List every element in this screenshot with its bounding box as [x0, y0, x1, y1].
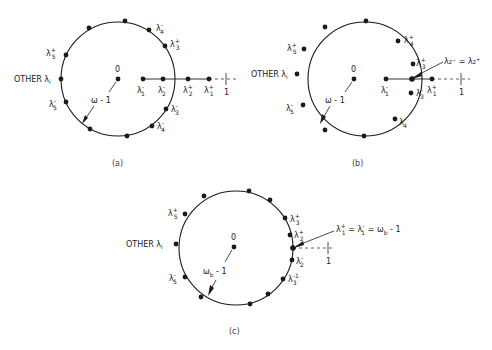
panel-caption: (b) [352, 159, 363, 168]
label-lambda2-minus: λ-2 [296, 254, 304, 268]
origin-point [116, 77, 121, 82]
radius-arrow-icon [208, 285, 214, 296]
label-lambda1-minus: λ-1 [137, 83, 145, 97]
origin-point [352, 77, 357, 82]
label-lambda2-plus: λ+2 [294, 228, 304, 242]
label-lambda5-plus: λ+5 [46, 46, 56, 60]
circle-eigenvalue-points [59, 19, 169, 139]
radius-label: ω - 1 [325, 96, 345, 105]
label-lambda3-minus: λ-3 [171, 102, 179, 116]
label-lambda1-plus: λ+1 [427, 83, 437, 97]
label-lambda2-plus: λ+2 [183, 83, 193, 97]
panel-caption: (a) [112, 159, 123, 168]
label-lambda1-minus: λ-1 [381, 83, 389, 97]
unit-label: 1 [459, 88, 464, 97]
label-lambda3-minus: λ-13 [288, 272, 299, 286]
unit-label: 1 [224, 88, 229, 97]
callout-arrow-icon [412, 72, 422, 79]
label-lambda1-plus: λ+1 [204, 83, 214, 97]
panel-a: 0 ω - 1 OTHER λi λ-4 λ+3 λ+5 λ-5 λ-3 λ-4… [14, 19, 238, 168]
callout-arrow-icon [294, 241, 304, 248]
radius-label: ωb - 1 [203, 267, 227, 278]
label-lambda5-minus: λ-5 [49, 97, 57, 111]
unit-label: 1 [326, 257, 331, 266]
other-lambda-label: OTHER λi [14, 75, 51, 85]
label-lambda5-plus: λ+5 [168, 206, 178, 220]
origin-label: 0 [115, 65, 120, 74]
origin-point [232, 245, 237, 250]
label-lambda3-minus: λ-3 [416, 86, 424, 100]
label-lambda5-plus: λ+5 [287, 41, 297, 55]
panel-c: 0 ωb - 1 OTHER λi λ+5 λ+3 λ+2 λ-2 λ-13 λ… [126, 189, 401, 336]
label-lambda4-plus: λ+4 [404, 33, 414, 47]
label-lambda2-minus: λ-2 [158, 83, 166, 97]
label-lambda4-minus: λ-4 [399, 115, 407, 129]
other-lambda-label: OTHER λi [251, 70, 288, 80]
label-lambda5-minus: λ-5 [169, 271, 177, 285]
label-lambda4-minus: λ-4 [156, 21, 164, 35]
radius-label: ω - 1 [91, 96, 111, 105]
eigenvalue-diagram-figure: 0 ω - 1 OTHER λi λ-4 λ+3 λ+5 λ-5 λ-3 λ-4… [0, 0, 492, 350]
other-lambda-label: OTHER λi [126, 240, 163, 250]
label-lambda4-minus-lower: λ-4 [157, 119, 165, 133]
origin-label: 0 [351, 65, 356, 74]
label-lambda3-plus: λ+3 [416, 56, 426, 70]
panel-caption: (c) [229, 327, 240, 336]
callout-label: λ+1 = λ-1 = ωb - 1 [336, 222, 401, 236]
callout-label: λ₂⁻ = λ₂⁺ [444, 57, 480, 66]
panel-b: 0 ω - 1 OTHER λi λ+4 λ+3 λ+5 λ-5 λ-3 λ-4… [251, 19, 480, 168]
label-lambda5-minus: λ-5 [286, 101, 294, 115]
label-lambda3-plus: λ+3 [170, 37, 180, 51]
origin-label: 0 [231, 233, 236, 242]
label-lambda3-plus: λ+3 [290, 212, 300, 226]
